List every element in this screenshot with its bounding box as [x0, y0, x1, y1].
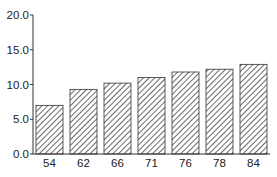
x-tick-label: 84: [247, 157, 260, 169]
bar-66: [104, 83, 131, 154]
x-tick-label: 71: [145, 157, 158, 169]
x-tick-label: 78: [213, 157, 226, 169]
y-axis: 0.05.010.015.020.0: [7, 9, 33, 160]
y-tick-label: 15.0: [7, 44, 29, 56]
bar-84: [240, 64, 267, 154]
bar-chart: 0.05.010.015.020.0 54626671767884: [0, 0, 277, 177]
x-tick-label: 54: [43, 157, 56, 169]
x-tick-label: 76: [179, 157, 192, 169]
y-tick-label: 10.0: [7, 79, 29, 91]
y-tick-label: 5.0: [13, 113, 29, 125]
bar-76: [172, 72, 199, 154]
bar-54: [36, 105, 63, 154]
x-tick-label: 62: [77, 157, 90, 169]
bar-78: [206, 69, 233, 154]
bar-71: [138, 78, 165, 154]
x-tick-label: 66: [111, 157, 124, 169]
bar-62: [70, 89, 97, 154]
x-axis: 54626671767884: [33, 154, 270, 169]
y-tick-label: 0.0: [13, 148, 29, 160]
y-tick-label: 20.0: [7, 9, 29, 21]
bars: [36, 64, 267, 154]
